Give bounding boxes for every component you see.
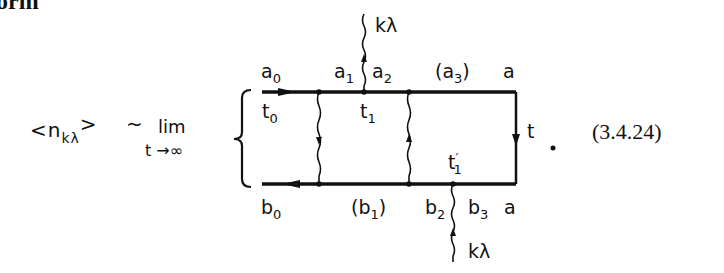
label-t1-prime: t′1 xyxy=(448,150,462,177)
label-a-bottom-right: a xyxy=(504,196,516,218)
external-photon-bottom xyxy=(452,184,455,262)
label-t0: t0 xyxy=(262,100,278,126)
arrow-up-icon xyxy=(406,134,412,142)
equation-number: (3.4.24) xyxy=(592,119,662,145)
arrow-left-icon xyxy=(282,180,300,188)
label-a2: a2 xyxy=(372,60,392,86)
arrow-down-icon xyxy=(512,134,520,146)
label-a0: a0 xyxy=(261,60,281,86)
arrow-up-icon xyxy=(450,228,456,236)
left-brace xyxy=(234,90,251,187)
label-a3: (a3) xyxy=(435,60,470,86)
trailing-dot xyxy=(551,146,556,151)
arrow-right-icon xyxy=(278,88,296,96)
external-photon-top xyxy=(363,14,366,92)
label-t1: t1 xyxy=(360,100,376,126)
label-a1: a1 xyxy=(334,60,354,86)
label-b1: (b1) xyxy=(351,196,386,222)
label-b2: b2 xyxy=(425,196,445,222)
photon-bottom-label: kλ xyxy=(468,240,490,262)
label-a-top-right: a xyxy=(503,60,515,82)
label-b0: b0 xyxy=(261,196,281,222)
label-b3: b3 xyxy=(468,196,488,222)
label-t: t xyxy=(527,120,534,142)
photon-top-label: kλ xyxy=(375,14,397,36)
